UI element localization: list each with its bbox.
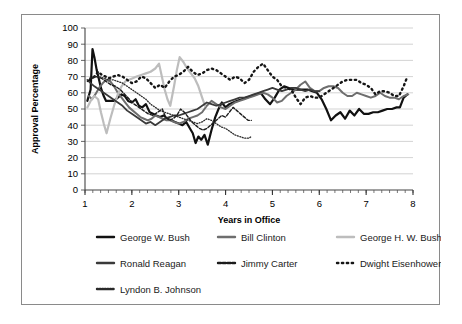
legend-item-dwight-eisenhower[interactable]: Dwight Eisenhower: [337, 258, 441, 269]
ytick-label-0: 0: [73, 184, 78, 195]
legend-label: Jimmy Carter: [241, 258, 297, 269]
ytick-label-50: 50: [67, 103, 78, 114]
ytick-label-100: 100: [62, 22, 78, 33]
ytick-label-20: 20: [67, 152, 78, 163]
x-axis-title: Years in Office: [218, 215, 281, 225]
ytick-label-70: 70: [67, 71, 78, 82]
xtick-label-2: 2: [129, 198, 134, 209]
legend-label: George W. Bush: [120, 232, 190, 243]
ytick-label-90: 90: [67, 39, 78, 50]
xtick-label-6: 6: [317, 198, 322, 209]
legend-item-ronald-reagan[interactable]: Ronald Reagan: [97, 258, 186, 269]
xtick-label-8: 8: [410, 198, 415, 209]
xtick-label-3: 3: [176, 198, 181, 209]
xtick-label-4: 4: [223, 198, 228, 209]
legend-item-george-w-bush[interactable]: George W. Bush: [97, 232, 190, 243]
chart-figure: 010203040506070809010012345678Years in O…: [21, 14, 440, 305]
legend-item-george-h-w-bush[interactable]: George H. W. Bush: [337, 232, 441, 243]
ytick-label-10: 10: [67, 168, 78, 179]
xtick-label-5: 5: [270, 198, 275, 209]
ytick-label-60: 60: [67, 87, 78, 98]
xtick-label-1: 1: [82, 198, 87, 209]
legend-label: Bill Clinton: [241, 232, 286, 243]
ytick-label-80: 80: [67, 55, 78, 66]
xtick-label-7: 7: [363, 198, 368, 209]
chart-plot-area: 010203040506070809010012345678Years in O…: [22, 15, 441, 306]
legend-label: Lyndon B. Johnson: [120, 284, 201, 295]
legend-label: George H. W. Bush: [360, 232, 441, 243]
legend-label: Dwight Eisenhower: [360, 258, 441, 269]
ytick-label-30: 30: [67, 136, 78, 147]
y-axis-title: Approval Percentage: [30, 64, 40, 154]
legend-item-lyndon-b-johnson[interactable]: Lyndon B. Johnson: [97, 284, 201, 295]
legend-item-jimmy-carter[interactable]: Jimmy Carter: [218, 258, 297, 269]
legend-item-bill-clinton[interactable]: Bill Clinton: [218, 232, 286, 243]
legend-label: Ronald Reagan: [120, 258, 186, 269]
ytick-label-40: 40: [67, 120, 78, 131]
approval-rating-line-chart: 010203040506070809010012345678Years in O…: [22, 15, 441, 306]
